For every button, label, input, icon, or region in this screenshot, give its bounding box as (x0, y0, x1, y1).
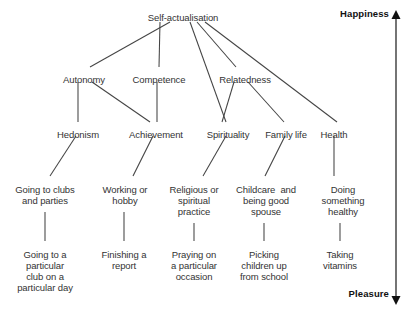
node-working-or-hobby: Working or hobby (103, 184, 148, 206)
edge-achievement-to-working-or-hobby (133, 136, 153, 176)
node-spirituality: Spirituality (207, 129, 250, 140)
edge-self-actualisation-to-competence (159, 22, 160, 67)
node-competence: Competence (133, 74, 186, 85)
node-relatedness: Relatedness (219, 74, 271, 85)
node-health: Health (321, 129, 348, 140)
node-hedonism: Hedonism (57, 129, 99, 140)
happiness-pleasure-axis (392, 10, 401, 305)
edge-autonomy-to-achievement (92, 82, 150, 122)
node-praying-occasion: Praying on a particular occasion (171, 249, 217, 282)
node-autonomy: Autonomy (63, 74, 105, 85)
edge-self-actualisation-to-autonomy (90, 22, 170, 67)
edge-self-actualisation-to-relatedness (197, 22, 236, 67)
diagram-canvas: Self-actualisationAutonomyCompetenceRela… (0, 0, 415, 317)
edge-self-actualisation-to-spirituality (190, 22, 226, 122)
node-doing-healthy: Doing something healthy (322, 184, 365, 217)
node-finishing-report: Finishing a report (102, 249, 147, 271)
node-achievement: Achievement (129, 129, 183, 140)
axis-label-pleasure: Pleasure (349, 288, 389, 299)
node-taking-vitamins: Taking vitamins (323, 249, 357, 271)
axis-label-happiness: Happiness (340, 8, 389, 19)
edge-relatedness-to-family-life (248, 82, 284, 122)
node-religious-practice: Religious or spiritual practice (170, 184, 219, 217)
node-going-to-clubs: Going to clubs and parties (15, 184, 74, 206)
node-family-life: Family life (265, 129, 307, 140)
node-particular-club: Going to a particular club on a particul… (17, 249, 73, 293)
node-childcare-spouse: Childcare and being good spouse (236, 184, 296, 217)
edge-spirituality-to-religious-practice (203, 136, 226, 176)
edge-relatedness-to-spirituality (222, 82, 234, 122)
axis-arrow-down-icon (392, 296, 401, 305)
node-self-actualisation: Self-actualisation (148, 12, 219, 23)
edge-hedonism-to-going-to-clubs (50, 136, 76, 176)
edge-family-life-to-childcare-spouse (265, 136, 285, 176)
axis-arrow-up-icon (392, 10, 401, 19)
node-picking-children: Picking children up from school (240, 249, 288, 282)
